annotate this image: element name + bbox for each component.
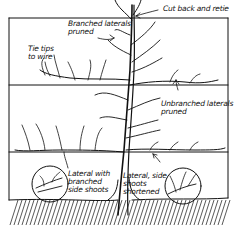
label-cut-back: Cut back and retie [163,5,229,13]
inset-left [32,166,68,202]
label-lateral-shortened: Lateral, side shoots shortened [123,172,167,196]
label-unbranched-laterals: Unbranched laterals pruned [161,100,233,116]
label-branched-laterals: Branched laterals pruned [68,20,131,36]
ground-hatching [10,200,230,225]
pruning-diagram: Cut back and retie Branched laterals pru… [0,0,239,238]
label-lateral-branched: Lateral with branched side shoots [68,170,110,194]
label-tie-tips: Tie tips to wire [28,45,54,61]
